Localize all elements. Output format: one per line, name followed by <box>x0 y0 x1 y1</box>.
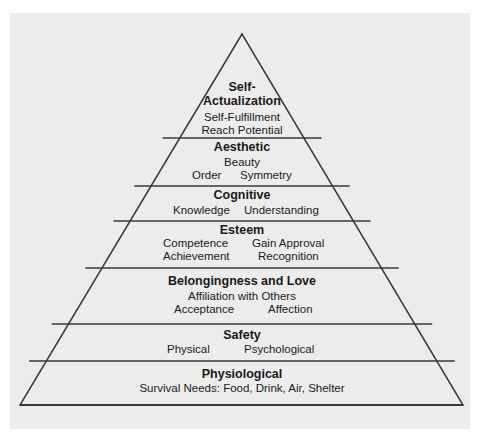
level-aesthetic-title: Aesthetic <box>0 140 484 154</box>
level-safety-row: Physical Psychological <box>167 343 314 355</box>
level-esteem-row: Achievement Recognition <box>163 250 319 262</box>
level-aesthetic-item: Beauty <box>0 156 484 168</box>
level-belongingness-title: Belongingness and Love <box>0 274 484 288</box>
level-cognitive-item: Understanding <box>244 204 319 216</box>
level-safety-title: Safety <box>0 328 484 342</box>
level-belongingness-row: Acceptance Affection <box>174 303 313 315</box>
level-esteem-item: Competence <box>163 237 252 249</box>
level-esteem-item: Recognition <box>258 250 319 262</box>
level-esteem-row: Competence Gain Approval <box>163 237 324 249</box>
level-safety-item: Physical <box>167 343 244 355</box>
level-aesthetic-item: Order <box>192 169 240 181</box>
level-aesthetic-row: Order Symmetry <box>192 169 292 181</box>
level-self-actualization-item: Reach Potential <box>0 124 484 136</box>
level-physiological-title: Physiological <box>0 367 484 381</box>
level-self-actualization-title-1: Self- <box>0 80 484 94</box>
level-self-actualization-title-2: Actualization <box>0 94 484 108</box>
level-cognitive-title: Cognitive <box>0 188 484 202</box>
level-esteem-item: Achievement <box>163 250 258 262</box>
level-physiological-item: Survival Needs: Food, Drink, Air, Shelte… <box>0 382 484 394</box>
level-belongingness-item: Affiliation with Others <box>0 290 484 302</box>
level-self-actualization-item: Self-Fulfillment <box>0 111 484 123</box>
level-esteem-title: Esteem <box>0 223 484 237</box>
level-esteem-item: Gain Approval <box>252 237 324 249</box>
level-belongingness-item: Acceptance <box>174 303 268 315</box>
level-cognitive-row: Knowledge Understanding <box>173 204 319 216</box>
level-aesthetic-item: Symmetry <box>240 169 292 181</box>
level-cognitive-item: Knowledge <box>173 204 244 216</box>
level-safety-item: Psychological <box>244 343 314 355</box>
level-belongingness-item: Affection <box>268 303 313 315</box>
